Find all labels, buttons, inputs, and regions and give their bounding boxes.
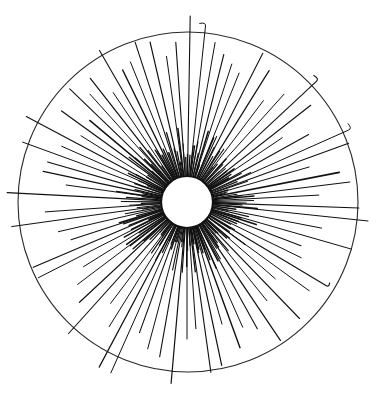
radial-line: [113, 93, 172, 180]
radial-line: [205, 94, 284, 182]
radial-line: [209, 138, 282, 187]
radial-line: [111, 224, 171, 304]
radial-line: [38, 214, 163, 277]
inner-circle: [161, 176, 213, 228]
radial-line: [90, 120, 167, 184]
radial-line: [23, 142, 162, 193]
radial-line: [208, 105, 310, 185]
radial-line: [109, 225, 173, 327]
radial-line: [111, 227, 176, 373]
radial-line: [43, 171, 160, 196]
radial-line: [186, 157, 187, 175]
radial-line: [70, 89, 168, 183]
radial-line: [90, 94, 169, 182]
radial-line: [69, 222, 169, 333]
radial-line: [201, 71, 269, 180]
radial-line: [90, 78, 170, 180]
radial-line: [141, 203, 160, 204]
radial-line-figure: [0, 0, 376, 399]
radial-line: [188, 16, 191, 175]
radial-line: [192, 43, 215, 176]
radial-line: [206, 221, 300, 318]
radial-line: [99, 226, 174, 367]
figure-canvas: [0, 0, 376, 399]
radial-line: [7, 193, 160, 201]
